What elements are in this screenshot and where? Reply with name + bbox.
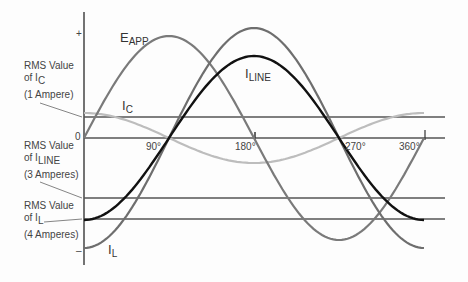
rms-iline-line1: RMS Value [24, 140, 78, 152]
tick-label-270: 270° [345, 141, 366, 152]
rms-il-line1: RMS Value [24, 200, 78, 212]
ac-parallel-circuit-diagram: + 0 – 90° 180° 270° 360° EAPP ILINE IC I… [0, 0, 468, 282]
il-label: IL [108, 242, 117, 259]
rms-ic-pointer [40, 103, 82, 117]
rms-ic-annotation: RMS Value of IC (1 Ampere) [24, 60, 74, 101]
ic-label: IC [122, 98, 133, 115]
rms-iline-annotation: RMS Value of ILINE (3 Amperes) [24, 140, 78, 181]
tick-label-360: 360° [399, 141, 420, 152]
rms-iline-pointer [40, 182, 82, 198]
rms-il-line2: of IL [24, 212, 78, 227]
eapp-label: EAPP [120, 30, 149, 47]
rms-ic-line3: (1 Ampere) [24, 89, 74, 101]
tick-label-180: 180° [235, 141, 256, 152]
rms-iline-line3: (3 Amperes) [24, 169, 78, 181]
minus-marker: – [76, 245, 82, 256]
rms-il-line3: (4 Amperes) [24, 229, 78, 241]
rms-ic-line1: RMS Value [24, 60, 74, 72]
iline-label: ILINE [245, 66, 271, 83]
tick-label-90: 90° [146, 141, 161, 152]
plus-marker: + [76, 28, 82, 39]
rms-il-annotation: RMS Value of IL (4 Amperes) [24, 200, 78, 241]
rms-iline-line2: of ILINE [24, 152, 78, 167]
rms-ic-line2: of IC [24, 72, 74, 87]
